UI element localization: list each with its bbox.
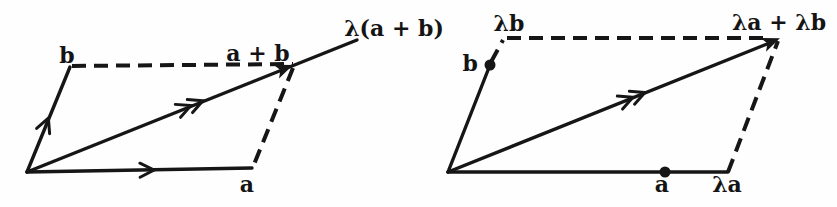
label-a-plus-b: a + b	[226, 40, 289, 66]
right-edge-dashed	[728, 41, 778, 172]
label-lambda-b: λb	[494, 10, 525, 36]
vector-scalar-distributive-figure: b a + b λ(a + b) a	[0, 0, 837, 207]
label-b: b	[59, 42, 74, 68]
label-b: b	[463, 50, 478, 76]
vector-diagram-svg: b a + b λ(a + b) a	[0, 0, 837, 207]
label-lambda-a-plus-lambda-b: λa + λb	[732, 9, 826, 35]
label-lambda-a: λa	[712, 171, 742, 197]
label-a: a	[240, 171, 254, 197]
b-to-lambda-b-dashed	[491, 40, 503, 62]
vector-a-line	[27, 168, 252, 172]
right-edge-dashed	[253, 68, 293, 167]
left-parallelogram-diagram: b a + b λ(a + b) a	[27, 15, 444, 197]
scaled-sum-vector-line	[448, 42, 772, 172]
right-parallelogram-diagram: λb b λa + λb a λa	[448, 9, 826, 197]
label-a: a	[655, 171, 669, 197]
label-lambda-a-plus-b: λ(a + b)	[344, 15, 444, 41]
point-b-dot	[485, 60, 496, 71]
